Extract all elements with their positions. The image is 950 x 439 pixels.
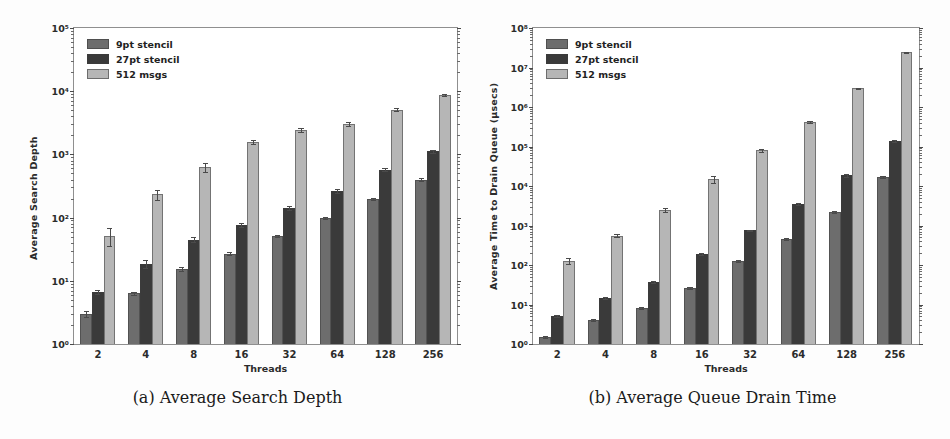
y-minor-tick [71, 325, 74, 326]
y-minor-tick-right [919, 269, 922, 270]
x-tick-label-4: 4 [602, 349, 609, 360]
error-bar-cap [747, 231, 752, 232]
y-minor-tick-right [457, 243, 460, 244]
legend: 9pt stencil27pt stencil512 msgs [83, 35, 185, 83]
y-minor-tick-right [919, 76, 922, 77]
y-minor-tick [71, 161, 74, 162]
bar-9pt-stencil-32 [272, 236, 284, 344]
legend-swatch-icon [87, 39, 109, 49]
y-minor-tick-right [457, 227, 460, 228]
y-minor-tick [71, 72, 74, 73]
y-major-tick-right [457, 154, 461, 155]
bar-512-msgs-8 [659, 210, 671, 344]
y-minor-tick-right [919, 69, 922, 70]
legend-item-512-msgs[interactable]: 512 msgs [87, 68, 179, 80]
y-minor-tick [71, 101, 74, 102]
legend: 9pt stencil27pt stencil512 msgs [542, 35, 644, 83]
x-tick-label-8: 8 [650, 349, 657, 360]
y-minor-tick-right [919, 227, 922, 228]
y-minor-tick [530, 232, 533, 233]
error-bar-cap [419, 181, 424, 182]
legend-label: 27pt stencil [575, 54, 638, 65]
error-bar-cap [904, 53, 909, 54]
bar-9pt-stencil-8 [176, 269, 188, 344]
legend-label: 512 msgs [116, 69, 167, 80]
error-bar-cap [554, 315, 559, 316]
error-bar-cap [107, 246, 112, 247]
error-bar-cap [687, 289, 692, 290]
y-minor-tick-right [919, 40, 922, 41]
legend-swatch-icon [87, 69, 109, 79]
legend-item-512-msgs[interactable]: 512 msgs [546, 68, 638, 80]
y-minor-tick [71, 287, 74, 288]
y-minor-tick-right [457, 187, 460, 188]
y-minor-tick-right [457, 164, 460, 165]
y-minor-tick [71, 42, 74, 43]
y-minor-tick [530, 56, 533, 57]
bar-27pt-stencil-8 [648, 282, 660, 344]
y-minor-tick [530, 229, 533, 230]
y-minor-tick-right [919, 281, 922, 282]
y-minor-tick [71, 38, 74, 39]
legend-swatch-icon [546, 69, 568, 79]
y-minor-tick-right [919, 320, 922, 321]
error-bar-cap [796, 203, 801, 204]
y-minor-tick-right [919, 311, 922, 312]
error-bar-cap [543, 338, 548, 339]
error-bar-cap [382, 168, 387, 169]
y-minor-tick-right [919, 111, 922, 112]
error-bar-cap [699, 253, 704, 254]
legend-swatch-icon [546, 54, 568, 64]
error-bar-cap [543, 336, 548, 337]
y-minor-tick-right [919, 237, 922, 238]
x-tick-label-64: 64 [791, 349, 805, 360]
legend-item-27pt-stencil[interactable]: 27pt stencil [546, 53, 638, 65]
error-bar-cap [699, 255, 704, 256]
y-minor-tick [71, 61, 74, 62]
legend-item-9pt-stencil[interactable]: 9pt stencil [87, 38, 179, 50]
y-minor-tick [530, 88, 533, 89]
figure-b-average-queue-drain-time: Average Time to Drain Queue (μsecs) 10⁰1… [475, 0, 950, 439]
legend-item-9pt-stencil[interactable]: 9pt stencil [546, 38, 638, 50]
legend-swatch-icon [87, 54, 109, 64]
y-major-tick-right [457, 91, 461, 92]
bar-27pt-stencil-2 [551, 316, 563, 344]
y-minor-tick-right [457, 300, 460, 301]
legend-item-27pt-stencil[interactable]: 27pt stencil [87, 53, 179, 65]
y-minor-tick [530, 119, 533, 120]
bar-512-msgs-16 [708, 179, 720, 344]
error-bar-cap [179, 271, 184, 272]
bar-27pt-stencil-16 [696, 254, 708, 344]
bar-512-msgs-256 [901, 52, 913, 344]
x-tick-label-128: 128 [375, 349, 396, 360]
y-minor-tick-right [919, 155, 922, 156]
y-minor-tick-right [457, 47, 460, 48]
y-minor-tick [71, 34, 74, 35]
y-minor-tick [530, 49, 533, 50]
y-minor-tick [71, 314, 74, 315]
error-bar [157, 190, 158, 200]
y-minor-tick [530, 32, 533, 33]
y-minor-tick-right [919, 232, 922, 233]
y-minor-tick-right [919, 313, 922, 314]
y-minor-tick [530, 306, 533, 307]
error-bar-cap [95, 290, 100, 291]
y-minor-tick-right [457, 34, 460, 35]
y-minor-tick-right [919, 158, 922, 159]
y-minor-tick [530, 113, 533, 114]
y-minor-tick [530, 237, 533, 238]
y-minor-tick [530, 128, 533, 129]
legend-label: 512 msgs [575, 69, 626, 80]
error-bar-cap [784, 238, 789, 239]
y-minor-tick-right [919, 74, 922, 75]
y-minor-tick [530, 293, 533, 294]
y-minor-tick-right [919, 241, 922, 242]
error-bar-cap [203, 163, 208, 164]
y-minor-tick [530, 286, 533, 287]
y-minor-tick-right [919, 150, 922, 151]
y-minor-tick-right [919, 123, 922, 124]
y-minor-tick-right [919, 119, 922, 120]
y-minor-tick-right [457, 314, 460, 315]
y-minor-tick [530, 308, 533, 309]
y-minor-tick-right [919, 274, 922, 275]
